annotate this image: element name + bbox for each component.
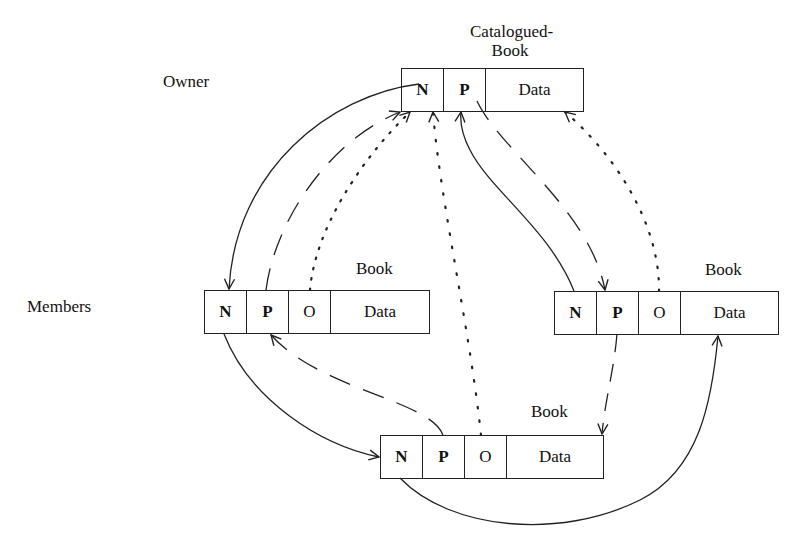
pointer-arrows <box>0 0 800 545</box>
next-arrow-right-to-cat <box>461 112 574 291</box>
prior-arrow-cat-to-right <box>477 101 605 290</box>
prior-arrow-left-to-cat <box>266 112 400 290</box>
prior-arrow-bottom-to-left <box>271 335 443 435</box>
owner-arrow-left-to-cat <box>310 112 410 290</box>
prior-arrow-right-to-bottom <box>602 334 617 434</box>
owner-arrow-right-to-cat <box>565 112 659 291</box>
next-arrow-cat-to-left <box>229 84 419 289</box>
next-arrow-bottom-to-right <box>400 336 718 525</box>
owner-arrow-bottom-to-cat <box>433 112 481 435</box>
next-arrow-left-to-bottom <box>224 334 379 457</box>
